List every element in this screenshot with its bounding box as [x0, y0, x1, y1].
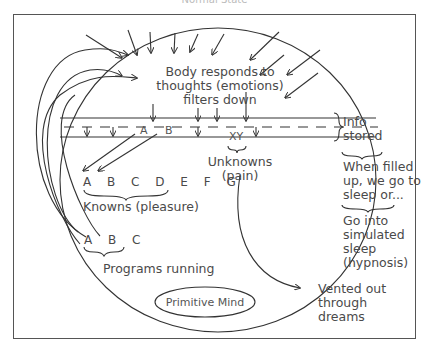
band-letters-xy: XY: [229, 130, 243, 144]
vented-label: Vented out through dreams: [318, 282, 386, 324]
band-letter-a: A: [140, 124, 148, 138]
simulated-sleep-label: Go into simulated sleep (hypnosis): [343, 214, 408, 270]
band-letter-b: B: [165, 124, 173, 138]
programs-letters: A B C: [84, 233, 146, 247]
info-stored-label: Info stored: [343, 115, 383, 143]
primitive-mind-label: Primitive Mind: [155, 296, 255, 310]
knowns-letters: A B C D E F G: [83, 175, 242, 189]
programs-label: Programs running: [103, 262, 214, 276]
knowns-label: Knowns (pleasure): [83, 200, 199, 214]
body-responds-label: Body responds to thoughts (emotions) fil…: [140, 65, 300, 107]
when-filled-label: When filled up, we go to sleep or...: [343, 160, 421, 202]
